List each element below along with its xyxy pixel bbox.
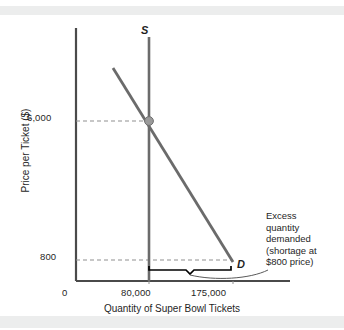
x-axis-title: Quantity of Super Bowl Tickets: [0, 303, 344, 314]
supply-demand-chart-figure: 6,000 800 0 80,000 175,000 Quantity of S…: [0, 0, 344, 330]
supply-curve-label: S: [141, 24, 148, 36]
annotation-leader-line: [190, 270, 268, 278]
y-axis-title: Price per Ticket ($): [20, 81, 31, 221]
annotation-line-4: (shortage at: [266, 245, 342, 257]
excess-quantity-brace: [149, 266, 231, 274]
x-tick-label-80000: 80,000: [121, 287, 151, 298]
excess-quantity-annotation: Excess quantity demanded (shortage at $8…: [266, 210, 342, 268]
annotation-line-2: quantity: [266, 222, 342, 234]
x-tick-label-175000: 175,000: [191, 287, 226, 298]
annotation-line-3: demanded: [266, 233, 342, 245]
chart-plot-area: [0, 0, 344, 330]
y-tick-label-6000: 6,000: [27, 112, 51, 123]
annotation-line-1: Excess: [266, 210, 342, 222]
y-tick-label-800: 800: [40, 251, 56, 262]
x-tick-label-0: 0: [62, 287, 67, 298]
demand-curve-label: D: [237, 258, 245, 270]
annotation-line-5: $800 price): [266, 256, 342, 268]
equilibrium-point-marker: [145, 117, 154, 126]
demand-curve: [113, 68, 233, 262]
